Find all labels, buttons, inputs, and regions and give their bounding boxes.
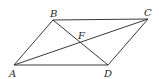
label-d: D xyxy=(103,68,112,79)
segments xyxy=(14,19,148,65)
diagonal-bd xyxy=(53,20,108,65)
segment-bc xyxy=(53,19,148,20)
label-f: F xyxy=(77,30,86,41)
point-labels: A B C D F xyxy=(8,7,152,79)
label-b: B xyxy=(49,8,57,19)
label-a: A xyxy=(8,68,16,79)
parallelogram-diagram: A B C D F xyxy=(0,0,159,79)
label-c: C xyxy=(144,7,152,18)
